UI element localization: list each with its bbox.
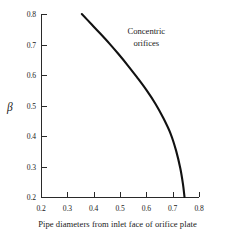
x-tick-label: 0.5 — [115, 204, 124, 213]
y-tick-label: 0.2 — [27, 193, 36, 202]
x-tick-label: 0.3 — [63, 204, 72, 213]
annotation-line-2: orifices — [104, 38, 188, 50]
x-tick-label: 0.4 — [89, 204, 98, 213]
x-tick-mark — [199, 192, 200, 197]
y-tick-mark — [42, 197, 47, 198]
y-tick-label: 0.8 — [27, 10, 36, 19]
x-tick-label: 0.8 — [194, 204, 203, 213]
x-tick-label: 0.7 — [168, 204, 177, 213]
x-axis-line — [41, 197, 199, 198]
y-tick-label: 0.4 — [27, 132, 36, 141]
y-tick-label: 0.6 — [27, 71, 36, 80]
x-tick-label: 0.6 — [142, 204, 151, 213]
y-axis-title: β — [7, 101, 13, 113]
y-tick-label: 0.7 — [27, 40, 36, 49]
figure-container: 0.20.30.40.50.60.70.8 0.20.30.40.50.60.7… — [0, 0, 235, 245]
y-tick-label: 0.5 — [27, 101, 36, 110]
x-tick-label: 0.2 — [36, 204, 45, 213]
y-tick-label: 0.3 — [27, 162, 36, 171]
annotation-line-1: Concentric — [104, 26, 188, 38]
x-axis-title: Pipe diameters from inlet face of orific… — [0, 219, 235, 229]
annotation-concentric-orifices: Concentric orifices — [104, 26, 188, 49]
